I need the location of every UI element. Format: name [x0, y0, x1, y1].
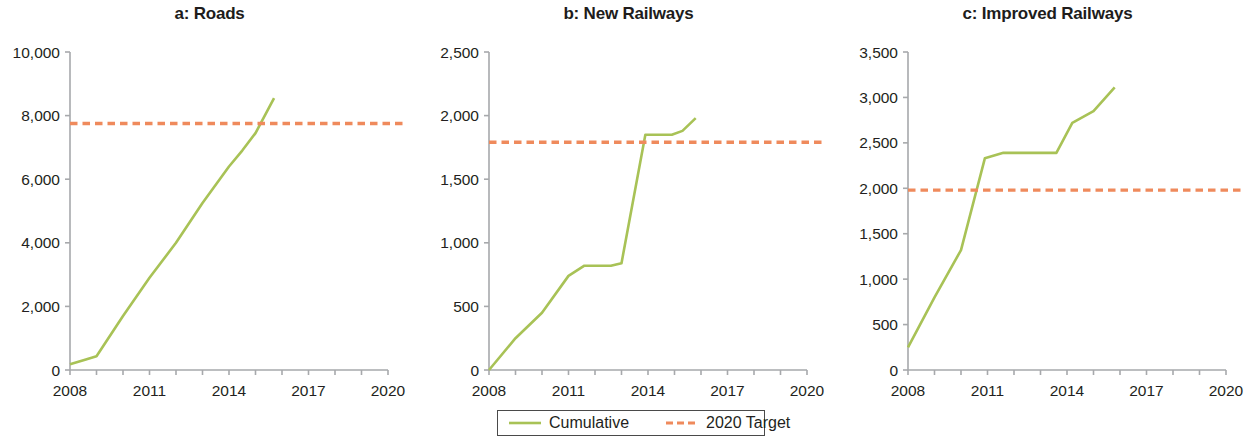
legend-swatch-solid-icon: [508, 416, 542, 430]
x-axis-tick-label: 2008: [891, 382, 925, 399]
y-axis-tick-label: 1,500: [859, 225, 898, 242]
y-axis-tick-label: 500: [872, 316, 898, 333]
y-axis-tick-label: 0: [51, 362, 60, 379]
x-axis-tick-label: 2011: [133, 382, 166, 399]
y-axis-tick-label: 8,000: [21, 107, 60, 124]
x-axis-tick-label: 2014: [631, 382, 666, 399]
panel-b-plot: 05001,0001,5002,0002,5002008201120142017…: [419, 0, 838, 400]
y-axis-tick-label: 0: [470, 362, 479, 379]
x-axis-tick-label: 2017: [1129, 382, 1163, 399]
legend-swatch-dashed-icon: [665, 416, 699, 430]
y-axis-tick-label: 2,500: [440, 44, 479, 61]
y-axis-tick-label: 10,000: [13, 44, 61, 61]
x-axis-tick-label: 2017: [710, 382, 744, 399]
x-axis-tick-label: 2011: [971, 382, 1004, 399]
axis-spine: [489, 52, 807, 370]
y-axis-tick-label: 0: [889, 362, 898, 379]
chart-panel-a: a: Roads 02,0004,0006,0008,00010,0002008…: [0, 0, 419, 400]
y-axis-tick-label: 1,000: [440, 234, 479, 251]
y-axis-tick-label: 6,000: [21, 171, 60, 188]
y-axis-tick-label: 500: [453, 298, 479, 315]
legend-label-target: 2020 Target: [706, 415, 790, 431]
axis-spine: [908, 52, 1226, 370]
x-axis-tick-label: 2020: [1209, 382, 1244, 399]
legend-item-cumulative: Cumulative: [508, 411, 629, 435]
x-axis-tick-label: 2020: [790, 382, 825, 399]
y-axis-tick-label: 2,500: [859, 134, 898, 151]
chart-panel-c: c: Improved Railways 05001,0001,5002,000…: [838, 0, 1257, 400]
panel-a-plot: 02,0004,0006,0008,00010,0002008201120142…: [0, 0, 419, 400]
x-axis-tick-label: 2014: [1050, 382, 1085, 399]
x-axis-tick-label: 2011: [552, 382, 585, 399]
legend-label-cumulative: Cumulative: [549, 415, 629, 431]
y-axis-tick-label: 3,500: [859, 44, 898, 61]
cumulative-line: [489, 118, 696, 370]
figure-container: a: Roads 02,0004,0006,0008,00010,0002008…: [0, 0, 1258, 437]
chart-legend: Cumulative 2020 Target: [497, 410, 765, 436]
y-axis-tick-label: 4,000: [21, 234, 60, 251]
x-axis-tick-label: 2020: [371, 382, 406, 399]
y-axis-tick-label: 2,000: [859, 180, 898, 197]
cumulative-line: [908, 87, 1115, 347]
y-axis-tick-label: 2,000: [21, 298, 60, 315]
x-axis-tick-label: 2008: [53, 382, 87, 399]
x-axis-tick-label: 2014: [212, 382, 247, 399]
x-axis-tick-label: 2017: [291, 382, 325, 399]
panel-c-plot: 05001,0001,5002,0002,5003,0003,500200820…: [838, 0, 1257, 400]
cumulative-line: [70, 98, 274, 364]
legend-item-target: 2020 Target: [665, 411, 790, 435]
y-axis-tick-label: 1,000: [859, 271, 898, 288]
y-axis-tick-label: 1,500: [440, 171, 479, 188]
y-axis-tick-label: 2,000: [440, 107, 479, 124]
x-axis-tick-label: 2008: [472, 382, 506, 399]
chart-panel-b: b: New Railways 05001,0001,5002,0002,500…: [419, 0, 838, 400]
y-axis-tick-label: 3,000: [859, 89, 898, 106]
